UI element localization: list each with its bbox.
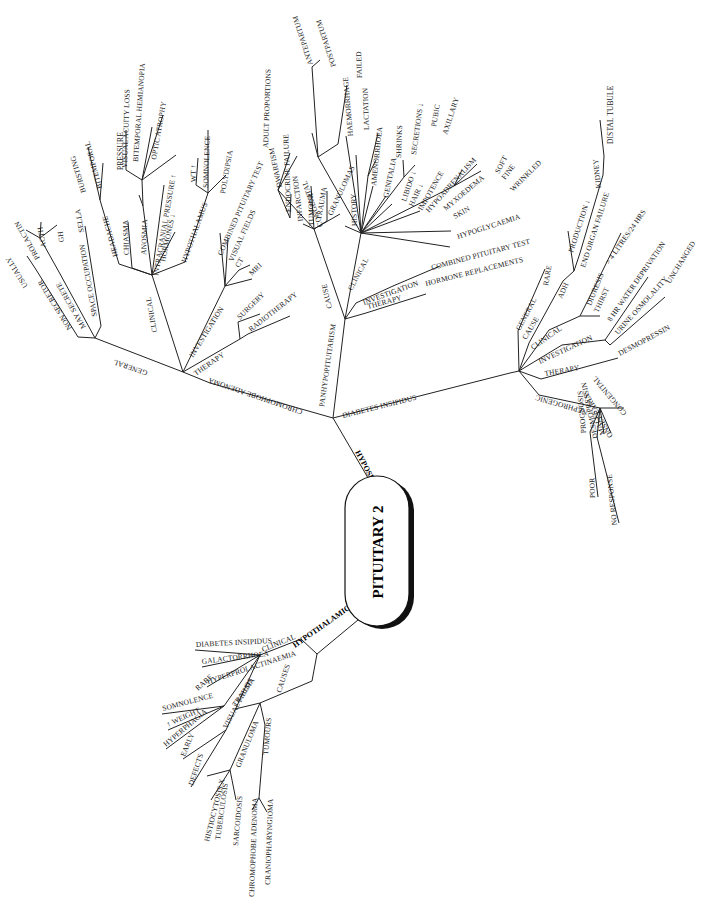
branch-label: ANTEPARTUM: [290, 15, 314, 67]
branch-line: [312, 654, 317, 681]
branch-label: BITEMPORAL: [82, 140, 103, 190]
branch-label: POLYDIPSIA: [218, 149, 235, 194]
branch-label: POOR: [587, 478, 597, 499]
branch-line: [95, 326, 101, 338]
branch-label: CAUSES: [274, 663, 292, 694]
branch-label: NO RESPONSE: [605, 473, 619, 525]
branch-label: SELLA: [73, 208, 86, 234]
branch-label: GENITALIA: [381, 156, 398, 198]
branch-label: WT ↑: [188, 164, 198, 182]
branch-label: ANOSMIA: [139, 219, 149, 255]
branch-line: [361, 231, 451, 233]
branch-label: VISUAL ACUITY LOSS: [120, 89, 132, 168]
pituitary-mind-map: HYPOSECRETIONHYPOTHALAMIC DEFICIENCYCHRO…: [0, 0, 711, 921]
branch-label: BURSTING: [68, 154, 88, 194]
branch-label: GH: [56, 230, 66, 243]
branch-label: HAEMORRHAGE: [341, 76, 355, 136]
branch-label: DISTAL TUBULE: [606, 85, 615, 144]
branch-label: SHRINKS: [394, 125, 404, 158]
branch-label: SOMNOLENCE: [201, 135, 212, 188]
branch-label: TUMOURS: [261, 717, 273, 755]
branch-label: KIDNEY: [591, 158, 603, 189]
branch-line: [605, 340, 610, 345]
branch-label: AMENORRHOEA: [369, 126, 384, 187]
branch-label: PUBIC: [429, 104, 442, 128]
branch-line: [260, 681, 312, 703]
branch-line: [361, 204, 392, 233]
branch-label: HYPOGLYCAEMIA: [456, 212, 522, 241]
branch-label: ADULT PROPORTIONS: [261, 69, 273, 148]
branch-label: LACTATION: [361, 87, 371, 130]
branch-line: [518, 331, 519, 371]
branch-label: HEADACHE: [100, 215, 120, 258]
branch-line: [603, 156, 604, 175]
branch-label: HYPOTHALAMUS: [179, 201, 209, 264]
branch-label: WRINKLED: [508, 158, 544, 194]
branch-label: SPACE OCCUPATION: [77, 243, 99, 317]
branch-label: SECRETIONS ↓: [409, 102, 425, 155]
branch-label: SARCOIDOSIS: [231, 795, 244, 846]
branch-label: UNCHANGED: [664, 239, 698, 285]
branch-line: [318, 144, 338, 157]
branch-label: POSTPARTUM: [314, 18, 338, 68]
branch-line: [132, 268, 152, 275]
branch-label: ADH: [556, 281, 571, 300]
branch-label: RARE: [541, 264, 553, 286]
branch-label: PANHYPOPITUITARISM: [317, 323, 338, 407]
branch-label: FAILED: [354, 51, 364, 78]
central-node: PITUITARY 2: [345, 476, 414, 629]
branch-line: [126, 170, 142, 180]
branch-line: [225, 279, 252, 286]
branch-line: [78, 337, 95, 338]
branch-line: [238, 322, 240, 339]
branch-label: DIABETES INSIPIDUS: [341, 393, 417, 420]
branch-label: CLINICAL: [346, 256, 371, 292]
branch-line: [510, 371, 519, 373]
branch-label: CHROMOPHOBE ADENOMA: [206, 376, 303, 417]
branch-line: [142, 180, 143, 206]
branch-line: [403, 160, 404, 177]
branch-line: [600, 120, 604, 156]
central-node-title: PITUITARY 2: [370, 505, 386, 598]
branch-label: AXILLARY: [440, 96, 461, 136]
branch-label: GENERAL: [112, 357, 149, 377]
branch-label: GRANULOMA: [234, 719, 261, 769]
branch-line: [361, 233, 450, 247]
branch-label: CHIASMA: [121, 219, 131, 255]
branch-label: CLINICAL: [144, 296, 159, 333]
branch-label: CRANIOPHARYNGIOMA: [263, 798, 275, 885]
branch-line: [225, 270, 239, 286]
branch-labels: HYPOSECRETIONHYPOTHALAMIC DEFICIENCYCHRO…: [3, 15, 697, 898]
branch-line: [563, 271, 574, 281]
branch-label: MRI: [247, 261, 264, 278]
branch-line: [240, 334, 248, 339]
branch-label: BITEMPORAL HEMIANOPIA: [131, 62, 147, 162]
branch-label: THERAPY: [544, 363, 581, 378]
branch-label: TUMOUR: [306, 193, 316, 226]
branch-label: HISTORY: [349, 193, 359, 226]
branch-label: ACTH: [35, 226, 48, 249]
branch-label: CAUSE: [319, 283, 333, 310]
branch-line: [519, 343, 529, 371]
branch-label: USUALLY: [3, 255, 29, 290]
branch-label: OPTIC ATROPHY: [149, 100, 168, 160]
branch-label: > 4 LITRES/24 HRS: [603, 208, 648, 266]
branch-label: ENDOCRINE FAILURE: [281, 134, 293, 213]
branch-label: CHROMOPHOBE ADENOMA: [247, 797, 259, 897]
